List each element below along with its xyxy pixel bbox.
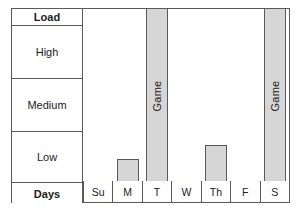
plot-area xyxy=(83,8,290,181)
day-cell-th[interactable]: Th xyxy=(201,181,230,202)
load-level-low-label: Low xyxy=(37,151,57,163)
load-axis-header: Load xyxy=(12,9,82,26)
load-level-low: Low xyxy=(12,132,82,182)
bar-saturday-label: Game xyxy=(269,80,281,111)
day-label-m: M xyxy=(123,186,132,198)
day-label-su: Su xyxy=(92,186,105,198)
day-cell-w[interactable]: W xyxy=(171,181,200,202)
bar-saturday[interactable]: Game xyxy=(264,8,286,182)
load-level-medium-label: Medium xyxy=(27,99,66,111)
day-cell-t[interactable]: T xyxy=(142,181,171,202)
day-label-t: T xyxy=(154,186,160,198)
load-axis-table: Load High Medium Low Days xyxy=(11,8,83,203)
bar-thursday[interactable] xyxy=(205,145,227,182)
load-axis-header-label: Load xyxy=(34,11,60,23)
load-vs-days-bar-chart: Load High Medium Low Days Game Game xyxy=(0,0,299,213)
load-level-medium: Medium xyxy=(12,79,82,132)
day-cell-f[interactable]: F xyxy=(230,181,259,202)
day-label-s: S xyxy=(271,186,278,198)
days-axis-row: Su M T W Th F S xyxy=(83,181,290,203)
day-cell-su[interactable]: Su xyxy=(83,181,112,202)
day-label-th: Th xyxy=(210,186,222,198)
bar-monday[interactable] xyxy=(117,159,139,182)
load-level-high: High xyxy=(12,26,82,79)
bar-tuesday[interactable]: Game xyxy=(146,8,168,182)
day-cell-s[interactable]: S xyxy=(260,181,289,202)
days-axis-corner-text: Days xyxy=(34,188,60,200)
bar-tuesday-label: Game xyxy=(151,80,163,111)
load-level-high-label: High xyxy=(36,46,59,58)
day-label-w: W xyxy=(182,186,192,198)
day-cell-m[interactable]: M xyxy=(112,181,141,202)
days-axis-corner-label: Days xyxy=(12,182,82,204)
day-label-f: F xyxy=(242,186,248,198)
